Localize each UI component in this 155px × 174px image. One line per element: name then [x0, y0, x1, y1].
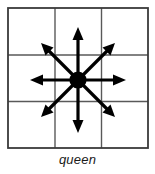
- queen-move-diagram: [0, 0, 155, 155]
- figure-caption: queen: [0, 151, 155, 169]
- queen-move-figure: queen: [0, 0, 155, 174]
- queen-position-dot: [69, 71, 86, 88]
